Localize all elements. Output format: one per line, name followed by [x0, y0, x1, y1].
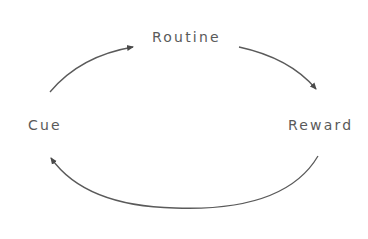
node-reward: Reward: [288, 118, 353, 132]
node-routine: Routine: [152, 30, 221, 44]
habit-loop-diagram: Routine Cue Reward: [0, 0, 368, 239]
arrow-reward-to-cue: [51, 156, 318, 208]
arrow-cue-to-routine: [50, 47, 133, 92]
arrow-routine-to-reward: [239, 47, 316, 89]
node-cue: Cue: [28, 118, 62, 132]
